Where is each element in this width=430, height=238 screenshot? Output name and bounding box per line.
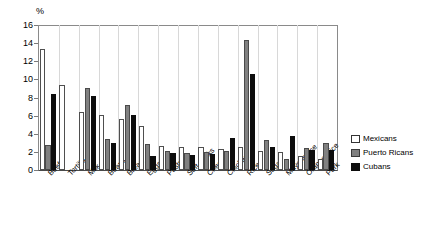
y-axis-tick-label: 10 (0, 75, 33, 84)
bar (91, 96, 96, 170)
bar-group (79, 25, 99, 170)
bar (59, 85, 64, 170)
group-separator (258, 25, 259, 170)
legend-label: Cubans (363, 162, 391, 171)
bar-group (238, 25, 258, 170)
legend-item: Mexicans (351, 132, 429, 145)
y-axis-tick-label: 2 (0, 147, 33, 156)
bar (238, 147, 243, 170)
bar (45, 145, 50, 170)
bar (51, 94, 56, 170)
bar (79, 112, 84, 170)
bar (270, 147, 275, 170)
bar (165, 151, 170, 170)
bar (230, 138, 235, 170)
legend-item: Cubans (351, 160, 429, 173)
bar (218, 149, 223, 170)
bar (40, 49, 45, 170)
bar (264, 140, 269, 170)
legend-label: Puerto Ricans (363, 148, 413, 157)
legend-item: Puerto Ricans (351, 146, 429, 159)
bar (290, 136, 295, 170)
bar-group (138, 25, 158, 170)
chart-legend: MexicansPuerto RicansCubans (351, 132, 429, 174)
group-separator (297, 25, 298, 170)
bar (278, 152, 283, 170)
x-axis-tick-labels: BeefTortillaMilkBeansBreadEggsPastrySoft… (39, 171, 339, 238)
bar-group (258, 25, 278, 170)
bar-group (39, 25, 59, 170)
y-axis-tick-label: 14 (0, 39, 33, 48)
y-axis-tick-label: 0 (0, 166, 33, 175)
bar (304, 148, 309, 170)
bar-group (178, 25, 198, 170)
bar (323, 143, 328, 170)
bar-group (277, 25, 297, 170)
white-square-swatch (351, 135, 360, 143)
bar (210, 154, 215, 170)
bars-layer (39, 25, 337, 170)
bar-group (158, 25, 178, 170)
bar (284, 159, 289, 170)
y-axis-tick-labels: 0246810121416 (0, 25, 33, 171)
y-axis-tick-label: 6 (0, 111, 33, 120)
bar (159, 146, 164, 170)
bar (224, 151, 229, 170)
group-separator (277, 25, 278, 170)
bar (329, 150, 334, 170)
bar (184, 153, 189, 170)
gray-square-swatch (351, 149, 360, 157)
bar-chart: % 0246810121416 BeefTortillaMilkBeansBre… (0, 0, 430, 238)
bar (318, 159, 323, 170)
y-axis-tick-label: 4 (0, 129, 33, 138)
bar (250, 74, 255, 170)
bar (258, 151, 263, 170)
bar (309, 150, 314, 170)
bar-group (59, 25, 79, 170)
legend-label: Mexicans (363, 134, 397, 143)
bar (99, 115, 104, 170)
y-axis-tick-label: 16 (0, 21, 33, 30)
bar (170, 153, 175, 170)
bar-group (218, 25, 238, 170)
bar (119, 119, 124, 170)
bar (204, 152, 209, 170)
y-axis-tick-label: 8 (0, 93, 33, 102)
bar-group (99, 25, 119, 170)
bar (105, 139, 110, 170)
bar (125, 105, 130, 170)
bar-group (118, 25, 138, 170)
bar (85, 88, 90, 170)
bar (145, 144, 150, 170)
bar (198, 147, 203, 170)
black-square-swatch (351, 163, 360, 171)
y-axis-unit-label: % (36, 6, 44, 16)
bar (298, 156, 303, 170)
bar (111, 143, 116, 170)
bar (179, 147, 184, 170)
bar (150, 156, 155, 170)
bar (244, 40, 249, 170)
bar (190, 155, 195, 170)
bar (131, 115, 136, 170)
y-axis-tick-label: 12 (0, 57, 33, 66)
bar (139, 126, 144, 170)
